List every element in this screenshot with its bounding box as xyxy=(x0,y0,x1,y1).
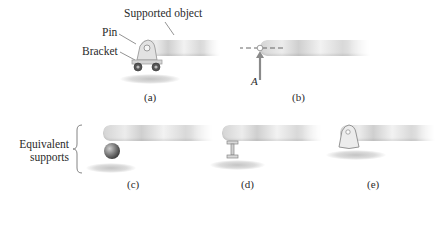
group-label-line1: Equivalent xyxy=(18,138,69,151)
caption-b: (b) xyxy=(292,91,305,103)
group-label-line2: supports xyxy=(18,151,69,164)
reaction-arrow-head-icon xyxy=(256,51,264,58)
caption-e: (e) xyxy=(367,178,379,190)
beam-c xyxy=(103,125,213,141)
bracket-with-rollers-icon xyxy=(128,38,168,72)
caption-d: (d) xyxy=(241,178,254,190)
pin-icon xyxy=(144,45,150,51)
force-label-a: A xyxy=(251,75,258,87)
pin-hole-icon xyxy=(257,45,263,51)
ball-support-icon xyxy=(102,140,122,162)
curly-brace-icon xyxy=(72,124,84,174)
ground-shadow-e xyxy=(326,150,386,160)
pin-reaction-diagram xyxy=(240,36,300,86)
ground-shadow-c xyxy=(86,163,136,173)
beam-d xyxy=(222,125,322,141)
equivalent-supports-label: Equivalent supports xyxy=(18,138,69,164)
caption-a: (a) xyxy=(144,91,156,103)
ground-shadow xyxy=(120,74,180,84)
pinned-bracket-icon xyxy=(336,123,362,151)
link-support-icon xyxy=(224,140,242,162)
caption-c: (c) xyxy=(127,178,139,190)
